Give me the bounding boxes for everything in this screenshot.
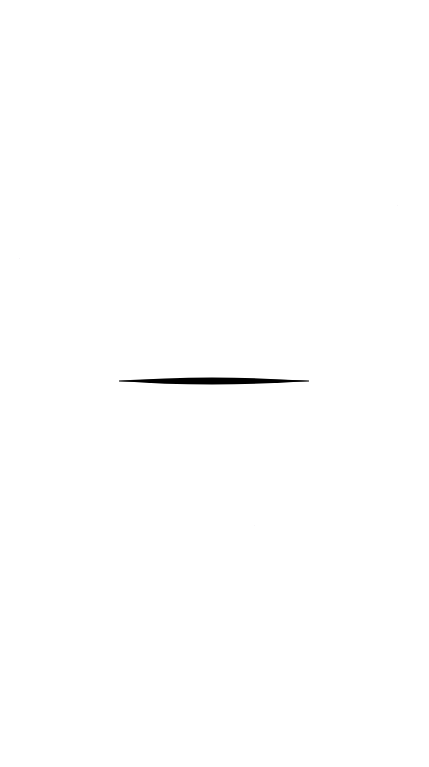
speck-lower-center [254, 525, 255, 526]
artwork-svg [0, 0, 429, 767]
speck-mid-right [397, 205, 398, 206]
speck-upper-left [19, 258, 20, 259]
image-canvas: A single thin black lens-shaped horizont… [0, 0, 429, 767]
